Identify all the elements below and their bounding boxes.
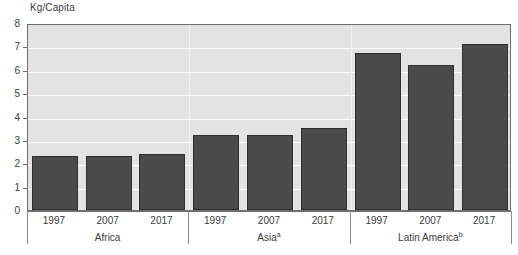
y-tick-mark bbox=[23, 164, 27, 165]
y-tick-mark bbox=[23, 188, 27, 189]
y-axis-line bbox=[27, 24, 28, 211]
x-tick-label: 2007 bbox=[242, 215, 296, 226]
bars-layer bbox=[28, 25, 510, 210]
bar bbox=[301, 128, 347, 210]
x-tick-label: 2007 bbox=[403, 215, 457, 226]
bar bbox=[32, 156, 78, 210]
y-tick-mark bbox=[23, 71, 27, 72]
bar bbox=[247, 135, 293, 210]
y-tick-mark bbox=[23, 47, 27, 48]
axis-edge-right bbox=[511, 211, 512, 244]
x-tick-label: 1997 bbox=[350, 215, 404, 226]
y-tick-mark bbox=[23, 94, 27, 95]
y-tick-label: 0 bbox=[2, 206, 20, 216]
y-tick-label: 4 bbox=[2, 113, 20, 123]
y-tick-label: 8 bbox=[2, 19, 20, 29]
y-tick-label: 7 bbox=[2, 42, 20, 52]
y-tick-mark bbox=[23, 118, 27, 119]
group-label-latin-america: Latin Americab bbox=[350, 232, 511, 243]
y-tick-label: 3 bbox=[2, 136, 20, 146]
y-tick-label: 2 bbox=[2, 159, 20, 169]
group-label-africa: Africa bbox=[27, 232, 188, 243]
footnote-marker: a bbox=[277, 231, 281, 238]
bar bbox=[408, 65, 454, 210]
bar bbox=[355, 53, 401, 210]
x-tick-label: 2017 bbox=[135, 215, 189, 226]
y-tick-label: 1 bbox=[2, 183, 20, 193]
x-tick-label: 2017 bbox=[296, 215, 350, 226]
axis-edge-left bbox=[27, 211, 28, 244]
bar-chart: Kg/Capita 012345678 199720072017Africa19… bbox=[0, 0, 518, 255]
y-axis-unit-label: Kg/Capita bbox=[30, 2, 75, 13]
y-tick-label: 5 bbox=[2, 89, 20, 99]
y-tick-mark bbox=[23, 141, 27, 142]
x-tick-label: 2017 bbox=[457, 215, 511, 226]
bar bbox=[139, 154, 185, 210]
x-tick-label: 1997 bbox=[27, 215, 81, 226]
bar bbox=[462, 44, 508, 210]
plot-area bbox=[27, 24, 511, 211]
bar bbox=[193, 135, 239, 210]
x-axis-baseline bbox=[27, 211, 511, 212]
x-tick-label: 2007 bbox=[81, 215, 135, 226]
group-label-asia: Asiaa bbox=[188, 232, 349, 243]
x-tick-label: 1997 bbox=[188, 215, 242, 226]
y-tick-label: 6 bbox=[2, 66, 20, 76]
bar bbox=[86, 156, 132, 210]
footnote-marker: b bbox=[459, 231, 463, 238]
